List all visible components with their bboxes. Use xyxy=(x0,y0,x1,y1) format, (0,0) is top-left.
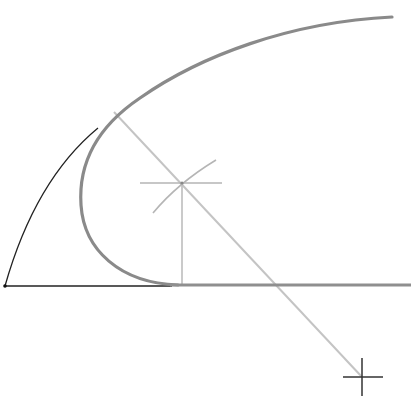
center-point xyxy=(180,181,183,184)
diagram-canvas xyxy=(0,0,413,411)
construction-diagram xyxy=(0,0,413,411)
corner-point xyxy=(3,284,7,288)
